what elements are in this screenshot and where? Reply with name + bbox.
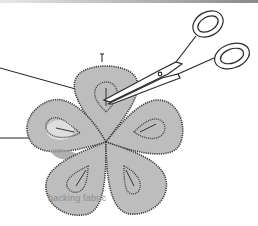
pin-icon — [100, 54, 104, 62]
illustration — [0, 0, 258, 226]
backing-fabric-label: backing fabric — [48, 193, 106, 203]
scissors-icon[interactable] — [104, 6, 253, 104]
